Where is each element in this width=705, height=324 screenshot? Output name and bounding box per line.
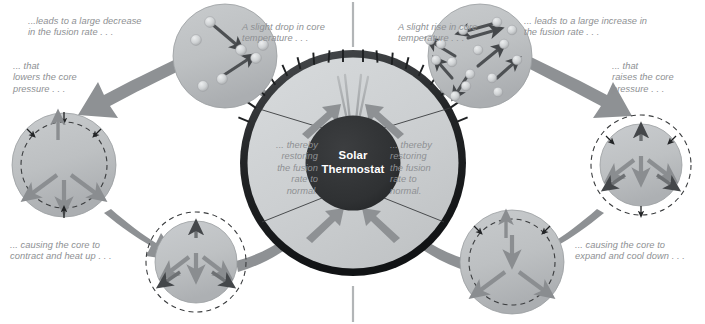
- node-low-fusion-rate: [173, 4, 277, 108]
- node-low-core-pressure: [12, 112, 116, 218]
- flow-arrow-fusion-low-to-pressure-low: [78, 56, 187, 118]
- solar-thermostat-diagram: ...leads to a large decrease in the fusi…: [0, 0, 705, 324]
- node-expanding-core: [460, 210, 564, 314]
- flow-arrow-fusion-high-to-pressure-high: [524, 56, 632, 118]
- node-high-core-pressure: [591, 115, 691, 215]
- node-contracting-core: [146, 212, 246, 312]
- solar-thermostat-title: Solar Thermostat: [303, 149, 403, 176]
